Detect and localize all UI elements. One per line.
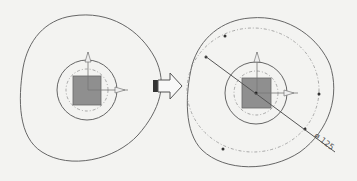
arrow-base-bars: [153, 80, 158, 92]
up-arrow-icon: [85, 52, 91, 62]
up-arrow-icon: [254, 52, 260, 62]
left-panel: [20, 15, 161, 161]
right-arrow-icon: [284, 90, 294, 96]
pitch-point: [224, 35, 227, 38]
right-panel: [187, 18, 335, 167]
transition-arrow-icon: [158, 73, 182, 99]
left-square: [73, 76, 101, 105]
pitch-point: [222, 148, 225, 151]
pitch-point: [318, 93, 321, 96]
right-arrow-icon: [115, 87, 125, 93]
transition-arrow: [153, 73, 182, 99]
diagram-canvas: [0, 0, 357, 181]
